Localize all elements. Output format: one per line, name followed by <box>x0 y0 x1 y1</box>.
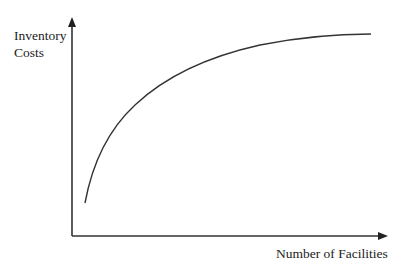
x-axis-label: Number of Facilities <box>276 246 388 262</box>
x-axis-arrow-icon <box>378 232 388 240</box>
inventory-cost-curve <box>85 34 371 203</box>
chart-canvas <box>0 0 404 268</box>
y-axis-arrow-icon <box>68 17 76 27</box>
